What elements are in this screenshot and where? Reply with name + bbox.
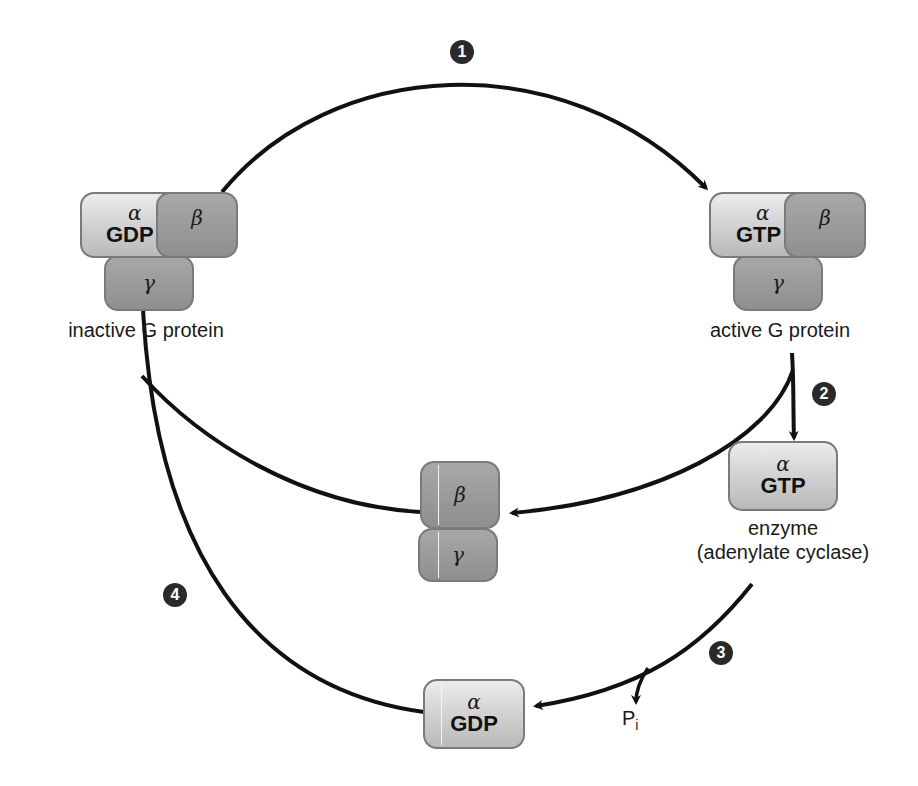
alpha-symbol: α [467, 692, 481, 712]
step-4-number: 4 [171, 586, 180, 604]
step-3-badge: 3 [709, 641, 733, 665]
active-g-protein-label: active G protein [680, 318, 880, 342]
beta-symbol: β [819, 208, 831, 228]
arrow-step-2 [792, 353, 794, 438]
gamma-symbol: γ [143, 273, 155, 293]
arrow-beta-gamma-return [142, 376, 420, 512]
phosphate-subscript: i [635, 717, 638, 733]
inactive-g-protein-label: inactive G protein [46, 318, 246, 342]
gdp-label: GDP [450, 712, 498, 736]
beta-symbol: β [191, 208, 203, 228]
beta-symbol: β [454, 485, 466, 505]
adenylate-cyclase-label: (adenylate cyclase) [673, 540, 893, 564]
phosphate-p: P [622, 707, 635, 729]
enzyme-label: enzyme [693, 516, 873, 540]
dimer-beta-subunit: β [420, 461, 500, 529]
gtp-label: GTP [760, 474, 805, 498]
gdp-label: GDP [106, 223, 154, 247]
alpha-symbol: α [776, 454, 790, 474]
step-2-number: 2 [820, 385, 829, 403]
arrow-step-1 [222, 85, 706, 192]
step-4-badge: 4 [163, 583, 187, 607]
inactive-beta-subunit: β [156, 192, 238, 258]
gamma-symbol: γ [452, 545, 464, 565]
step-2-badge: 2 [812, 382, 836, 406]
gtp-label: GTP [736, 223, 781, 247]
arrow-step-4 [142, 284, 424, 712]
alpha-symbol: α [128, 203, 142, 223]
active-beta-subunit: β [784, 192, 866, 258]
dimer-gamma-subunit: γ [418, 528, 498, 582]
step-3-number: 3 [717, 644, 726, 662]
inactive-gamma-subunit: γ [104, 255, 194, 311]
alpha-symbol: α [756, 203, 770, 223]
active-gamma-subunit: γ [733, 255, 823, 311]
gamma-symbol: γ [772, 273, 784, 293]
step-1-badge: 1 [450, 40, 474, 64]
step-1-number: 1 [458, 43, 467, 61]
phosphate-label: Pi [622, 706, 652, 737]
alpha-gtp-subunit: α GTP [728, 441, 838, 511]
cycle-arrows [0, 0, 918, 786]
alpha-gdp-subunit: α GDP [423, 679, 525, 749]
